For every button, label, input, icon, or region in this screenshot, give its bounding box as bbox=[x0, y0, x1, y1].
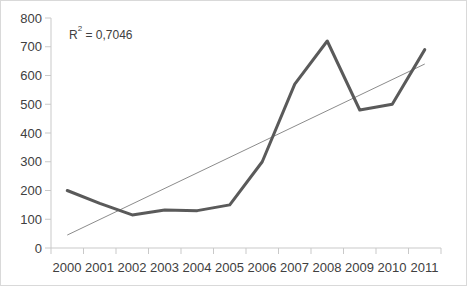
y-tick-label-0: 0 bbox=[35, 241, 42, 256]
r-squared-value: = 0,7046 bbox=[82, 28, 133, 42]
y-tick-label-800: 800 bbox=[20, 11, 42, 26]
chart-svg: 800 700 600 500 400 300 200 100 0 bbox=[1, 1, 468, 287]
x-axis-tick-labels: 2000 2001 2002 2003 2004 2005 2006 2007 … bbox=[53, 260, 439, 275]
r-squared-base: R bbox=[69, 28, 78, 42]
y-tick-label-400: 400 bbox=[20, 126, 42, 141]
r-squared-annotation: R2 = 0,7046 bbox=[69, 24, 133, 43]
x-tick-label-2008: 2008 bbox=[313, 260, 342, 275]
x-tick-label-2006: 2006 bbox=[248, 260, 277, 275]
data-series-line bbox=[67, 41, 425, 215]
x-tick-label-2010: 2010 bbox=[378, 260, 407, 275]
x-tick-label-2011: 2011 bbox=[411, 260, 439, 275]
y-tick-label-500: 500 bbox=[20, 97, 42, 112]
chart-container: 800 700 600 500 400 300 200 100 0 bbox=[0, 0, 467, 286]
y-axis bbox=[45, 18, 51, 248]
x-tick-label-2007: 2007 bbox=[280, 260, 309, 275]
y-tick-label-300: 300 bbox=[20, 154, 42, 169]
y-tick-label-600: 600 bbox=[20, 68, 42, 83]
x-tick-label-2003: 2003 bbox=[150, 260, 179, 275]
y-tick-label-700: 700 bbox=[20, 39, 42, 54]
x-tick-label-2005: 2005 bbox=[215, 260, 244, 275]
y-tick-label-100: 100 bbox=[20, 212, 42, 227]
x-tick-label-2009: 2009 bbox=[345, 260, 374, 275]
y-axis-tick-labels: 800 700 600 500 400 300 200 100 0 bbox=[20, 11, 42, 256]
y-tick-label-200: 200 bbox=[20, 183, 42, 198]
plot-area: 800 700 600 500 400 300 200 100 0 bbox=[1, 1, 468, 287]
x-tick-label-2002: 2002 bbox=[118, 260, 147, 275]
x-tick-label-2001: 2001 bbox=[85, 260, 114, 275]
x-tick-label-2004: 2004 bbox=[183, 260, 212, 275]
x-axis bbox=[51, 248, 441, 254]
x-tick-label-2000: 2000 bbox=[53, 260, 82, 275]
